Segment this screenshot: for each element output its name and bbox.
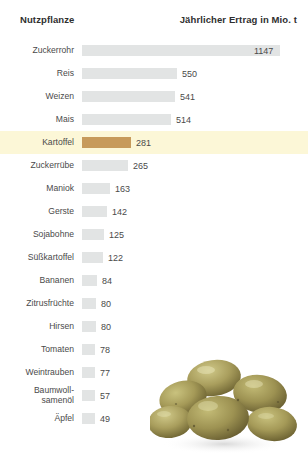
chart-row-label: Zuckerrübe <box>0 154 78 177</box>
chart-row-label: Zitrusfrüchte <box>0 292 78 315</box>
chart-row-label: Reis <box>0 62 78 85</box>
chart-bar <box>82 344 95 355</box>
chart-value-label: 281 <box>136 131 151 154</box>
chart-row-label: Zuckerrohr <box>0 39 78 62</box>
chart-row-bar-area: 514 <box>82 108 308 131</box>
chart-bar <box>82 91 175 102</box>
chart-row: Weizen541 <box>0 85 308 108</box>
chart-bar <box>82 137 131 148</box>
chart-row-bar-area: 84 <box>82 269 308 292</box>
chart-row: Mais514 <box>0 108 308 131</box>
chart-row-bar-area: 265 <box>82 154 308 177</box>
chart-row-label: Weintrauben <box>0 361 78 384</box>
chart-row-bar-area: 80 <box>82 315 308 338</box>
chart-row: Zitrusfrüchte80 <box>0 292 308 315</box>
chart-row-label: Baumwoll- samenöl <box>0 384 78 407</box>
chart-row-bar-area: 541 <box>82 85 308 108</box>
chart-value-label: 265 <box>133 154 148 177</box>
chart-value-label: 80 <box>101 315 111 338</box>
chart-header: Nutzpflanze Jährlicher Ertrag in Mio. t <box>0 14 308 32</box>
chart-row: Süßkartoffel122 <box>0 246 308 269</box>
chart-row: Hirsen80 <box>0 315 308 338</box>
chart-row: Bananen84 <box>0 269 308 292</box>
chart-bar <box>82 275 97 286</box>
chart-row-bar-area: 122 <box>82 246 308 269</box>
chart-bar <box>82 229 104 240</box>
chart-value-label: 163 <box>115 177 130 200</box>
chart-bar <box>82 298 96 309</box>
chart-row: Reis550 <box>0 62 308 85</box>
potato-pile-image <box>150 356 300 454</box>
chart-row-label: Hirsen <box>0 315 78 338</box>
chart-value-label: 80 <box>101 292 111 315</box>
chart-row-bar-area: 163 <box>82 177 308 200</box>
chart-row-label: Gerste <box>0 200 78 223</box>
chart-value-label: 142 <box>112 200 127 223</box>
chart-row-label: Süßkartoffel <box>0 246 78 269</box>
chart-value-label: 1147 <box>254 39 273 62</box>
chart-row-label: Weizen <box>0 85 78 108</box>
chart-bar <box>82 160 128 171</box>
chart-value-label: 49 <box>100 407 110 430</box>
chart-row-bar-area: 1147 <box>82 39 308 62</box>
chart-row: Zuckerrübe265 <box>0 154 308 177</box>
chart-row-bar-area: 125 <box>82 223 308 246</box>
chart-value-label: 77 <box>100 361 110 384</box>
chart-value-label: 122 <box>108 246 123 269</box>
chart-bar <box>82 321 96 332</box>
chart-bar <box>82 183 110 194</box>
chart-value-label: 78 <box>100 338 110 361</box>
chart-value-label: 125 <box>109 223 124 246</box>
chart-bar <box>82 68 177 79</box>
chart-row-bar-area: 142 <box>82 200 308 223</box>
chart-bar <box>82 252 103 263</box>
chart-value-label: 57 <box>100 384 110 407</box>
chart-row: Sojabohne125 <box>0 223 308 246</box>
chart-bar <box>82 390 95 401</box>
chart-row: Kartoffel281 <box>0 131 308 154</box>
chart-bar <box>82 114 171 125</box>
chart-bar <box>82 413 95 424</box>
column-header-crop: Nutzpflanze <box>20 14 74 25</box>
chart-row-label: Mais <box>0 108 78 131</box>
chart-value-label: 541 <box>180 85 195 108</box>
chart-row-label: Maniok <box>0 177 78 200</box>
chart-row-bar-area: 80 <box>82 292 308 315</box>
chart-row-bar-area: 281 <box>82 131 308 154</box>
chart-row: Zuckerrohr1147 <box>0 39 308 62</box>
chart-row: Maniok163 <box>0 177 308 200</box>
chart-row: Gerste142 <box>0 200 308 223</box>
chart-value-label: 550 <box>182 62 197 85</box>
chart-row-label: Kartoffel <box>0 131 78 154</box>
chart-row-label: Tomaten <box>0 338 78 361</box>
chart-row-label: Bananen <box>0 269 78 292</box>
chart-row-bar-area: 550 <box>82 62 308 85</box>
chart-value-label: 514 <box>176 108 191 131</box>
chart-bar <box>82 45 280 56</box>
chart-bar <box>82 367 95 378</box>
column-header-yield: Jährlicher Ertrag in Mio. t <box>180 14 297 25</box>
chart-row-label: Äpfel <box>0 407 78 430</box>
chart-value-label: 84 <box>102 269 112 292</box>
chart-row-label: Sojabohne <box>0 223 78 246</box>
chart-bar <box>82 206 107 217</box>
